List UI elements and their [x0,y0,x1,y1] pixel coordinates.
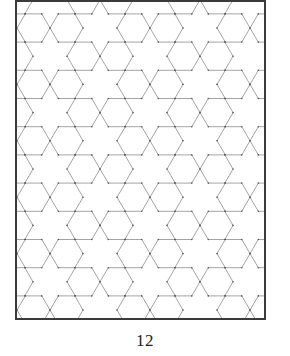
vertex-dot [182,140,184,142]
vertex-dot [158,70,160,72]
vertex-dot [241,154,243,156]
vertex-dot [166,168,168,170]
vertex-dot [8,41,10,43]
vertex-dot [99,55,101,57]
vertex-dot [274,41,276,43]
vertex-dot [208,154,210,156]
vertex-dot [282,27,284,29]
hexagon [117,70,150,98]
vertex-dot [175,323,177,325]
vertex-dot [58,70,60,72]
vertex-dot [266,112,268,114]
vertex-dot [216,140,218,142]
vertex-dot [8,70,10,72]
vertex-dot [49,309,51,311]
hexagon [67,0,100,14]
vertex-dot [116,196,118,198]
vertex-dot [8,323,10,325]
vertex-dot [99,281,101,283]
hexagon [150,14,183,42]
vertex-dot [225,239,227,241]
vertex-dot [24,41,26,43]
vertex-dot [75,323,77,325]
hexagon [100,324,133,330]
vertex-dot [241,41,243,43]
vertex-dot [199,281,201,283]
vertex-dot [224,211,226,213]
vertex-dot [224,98,226,100]
vertex-dot [41,295,43,297]
vertex-dot [274,239,276,241]
vertex-dot [74,70,76,72]
vertex-dot [0,112,1,114]
vertex-dot [24,154,26,156]
vertex-dot [66,281,68,283]
vertex-dot [0,0,1,1]
vertex-dot [91,13,93,15]
vertex-dot [208,98,210,100]
vertex-dot [125,323,127,325]
hexagon [17,127,50,155]
vertex-dot [58,239,60,241]
vertex-dot [241,239,243,241]
vertex-dot [66,168,68,170]
vertex-dot [75,267,77,269]
vertex-dot [266,55,268,57]
vertex-dot [232,112,234,114]
hexagon [0,324,33,330]
vertex-dot [149,84,151,86]
vertex-dot [108,295,110,297]
vertex-dot [166,55,168,57]
vertex-dot [208,126,210,128]
vertex-dot [91,182,93,184]
vertex-dot [182,84,184,86]
vertex-dot [124,267,126,269]
vertex-dot [175,154,177,156]
vertex-dot [191,239,193,241]
vertex-dot [158,239,160,241]
vertex-dot [24,267,26,269]
vertex-dot [275,98,277,100]
vertex-dot [58,126,60,128]
hexagon [167,155,200,183]
hexagon [17,240,50,268]
vertex-dot [91,98,93,100]
vertex-dot [241,211,243,213]
vertex-dot [191,267,193,269]
vertex-dot [25,126,27,128]
vertex-dot [258,98,260,100]
vertex-dot [41,41,43,43]
vertex-dot [58,295,60,297]
vertex-dot [108,182,110,184]
vertex-dot [74,13,76,15]
hexagon [267,324,290,330]
vertex-dot [125,13,127,15]
vertex-dot [182,309,184,311]
vertex-dot [241,323,243,325]
vertex-dot [0,112,1,114]
vertex-dot [175,98,177,100]
hexagon [67,324,100,330]
vertex-dot [282,84,284,86]
vertex-dot [174,295,176,297]
vertex-dot [0,281,1,283]
vertex-dot [199,225,201,227]
hexagon [167,324,200,330]
vertex-dot [8,267,10,269]
vertex-dot [275,182,277,184]
hexagon [250,70,283,98]
hexagon [217,14,250,42]
vertex-dot [174,239,176,241]
vertex-dot [274,126,276,128]
vertex-dot [174,13,176,15]
vertex-dot [132,168,134,170]
vertex-dot [141,154,143,156]
hexagon [150,127,183,155]
vertex-dot [241,267,243,269]
vertex-dot [8,182,10,184]
hexagon [167,0,200,14]
vertex-dot [282,196,284,198]
vertex-dot [41,126,43,128]
hexagon [100,155,133,183]
hexagon [67,155,100,183]
